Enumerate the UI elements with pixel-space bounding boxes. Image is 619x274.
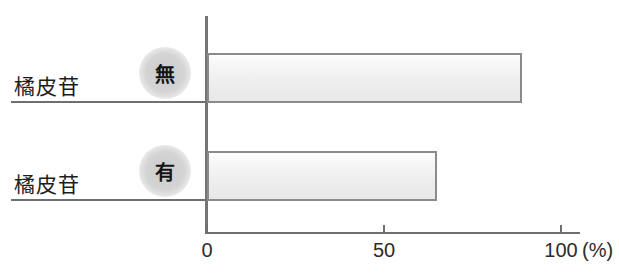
x-tick-label-50: 50: [373, 240, 395, 260]
x-tick-label-0: 0: [201, 240, 212, 260]
bar-chart: 橘皮苷 無 橘皮苷 有 0 50 100 (%): [0, 0, 619, 274]
x-tick-50: [383, 225, 385, 234]
category-badge-2: 有: [139, 145, 191, 197]
category-name-1: 橘皮苷: [14, 76, 80, 97]
category-label-row-1: 橘皮苷 無: [0, 45, 212, 103]
x-tick-0: [206, 225, 208, 234]
bar-row-2: [207, 151, 437, 201]
y-axis-line: [205, 16, 208, 234]
category-underline-1: [11, 101, 212, 103]
x-tick-label-100: 100: [544, 240, 577, 260]
category-label-row-2: 橘皮苷 有: [0, 143, 212, 201]
x-axis-line: [205, 232, 580, 234]
category-underline-2: [11, 199, 212, 201]
x-axis-unit-label: (%): [582, 240, 613, 260]
category-name-2: 橘皮苷: [14, 174, 80, 195]
x-tick-100: [560, 225, 562, 234]
bar-row-1: [207, 53, 522, 103]
category-badge-1: 無: [139, 47, 191, 99]
